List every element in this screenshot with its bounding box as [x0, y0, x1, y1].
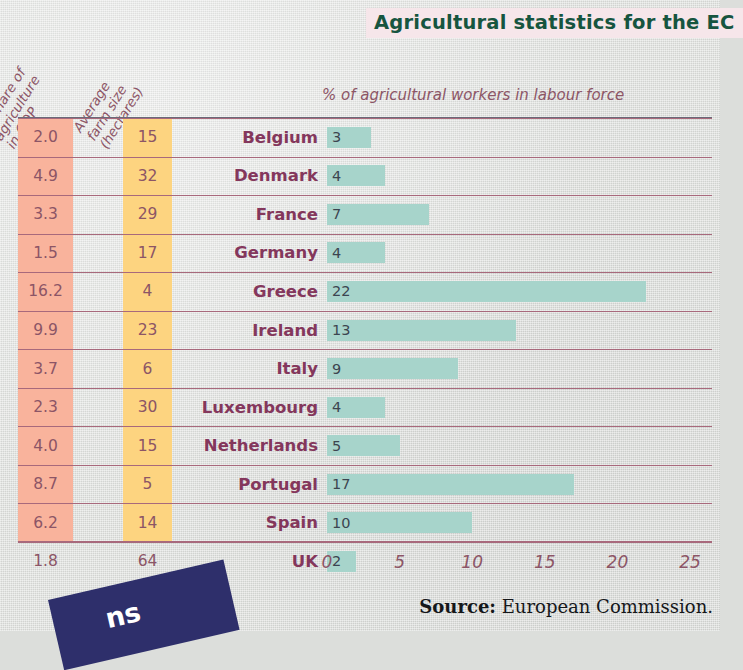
cell-gdp-share: 4.0	[18, 426, 73, 465]
bar: 4	[327, 397, 385, 418]
cell-gdp-share: 3.7	[18, 349, 73, 388]
cell-gdp-share: 8.7	[18, 465, 73, 504]
bar: 9	[327, 358, 458, 379]
table-row: 8.75Portugal17	[0, 465, 720, 504]
cell-average-farm-size: 5	[123, 465, 172, 504]
cell-average-farm-size: 15	[123, 118, 172, 157]
bar: 4	[327, 165, 385, 186]
cell-country-name: Spain	[176, 503, 318, 542]
bar: 22	[327, 281, 646, 302]
bar: 7	[327, 204, 429, 225]
bar-value-label: 4	[327, 245, 341, 261]
table-row: 4.015Netherlands5	[0, 426, 720, 465]
bar-value-label: 5	[327, 438, 341, 454]
cell-gdp-share: 6.2	[18, 503, 73, 542]
table-row: 2.330Luxembourg4	[0, 388, 720, 427]
bar-track: 17	[327, 465, 574, 504]
x-axis-ticks: 0510152025	[0, 552, 720, 582]
cell-gdp-share: 3.3	[18, 195, 73, 234]
corner-banner-text: ns	[102, 596, 143, 634]
x-axis-tick: 5	[394, 552, 405, 572]
table-row: 2.015Belgium3	[0, 118, 720, 157]
table-row: 16.24Greece22	[0, 272, 720, 311]
table-row: 6.214Spain10	[0, 503, 720, 542]
cell-country-name: Italy	[176, 349, 318, 388]
bar: 3	[327, 127, 371, 148]
x-axis-tick: 10	[461, 552, 483, 572]
page-title: Agricultural statistics for the EC	[366, 8, 743, 38]
bar: 4	[327, 242, 385, 263]
bar-track: 4	[327, 388, 385, 427]
bar-value-label: 9	[327, 361, 341, 377]
bar-value-label: 22	[327, 283, 350, 299]
cell-country-name: Portugal	[176, 465, 318, 504]
bar-value-label: 7	[327, 206, 341, 222]
bar: 17	[327, 474, 574, 495]
table-row: 1.517Germany4	[0, 234, 720, 273]
cell-gdp-share: 16.2	[18, 272, 73, 311]
cell-gdp-share: 2.3	[18, 388, 73, 427]
bar-track: 4	[327, 234, 385, 273]
cell-country-name: Luxembourg	[176, 388, 318, 427]
cell-country-name: Belgium	[176, 118, 318, 157]
bar-track: 3	[327, 118, 371, 157]
x-axis-tick: 20	[607, 552, 629, 572]
cell-country-name: Denmark	[176, 157, 318, 196]
cell-gdp-share: 4.9	[18, 157, 73, 196]
cell-country-name: France	[176, 195, 318, 234]
bar-track: 9	[327, 349, 458, 388]
cell-average-farm-size: 23	[123, 311, 172, 350]
bar-value-label: 4	[327, 399, 341, 415]
x-axis-tick: 0	[322, 552, 333, 572]
cell-country-name: Netherlands	[176, 426, 318, 465]
bar-track: 5	[327, 426, 400, 465]
cell-country-name: Ireland	[176, 311, 318, 350]
bar-value-label: 13	[327, 322, 350, 338]
source-text: European Commission.	[502, 596, 713, 617]
bar-track: 4	[327, 157, 385, 196]
table-row: 9.923Ireland13	[0, 311, 720, 350]
cell-average-farm-size: 6	[123, 349, 172, 388]
cell-average-farm-size: 30	[123, 388, 172, 427]
x-axis-tick: 15	[534, 552, 556, 572]
bar-value-label: 10	[327, 515, 350, 531]
cell-country-name: Germany	[176, 234, 318, 273]
data-table: 2.015Belgium34.932Denmark43.329France71.…	[0, 118, 720, 581]
bar-value-label: 17	[327, 476, 350, 492]
table-row: 4.932Denmark4	[0, 157, 720, 196]
cell-gdp-share: 2.0	[18, 118, 73, 157]
bar: 13	[327, 320, 516, 341]
table-row: 3.329France7	[0, 195, 720, 234]
cell-average-farm-size: 32	[123, 157, 172, 196]
cell-gdp-share: 1.5	[18, 234, 73, 273]
axis-rule	[18, 541, 712, 542]
bar-track: 7	[327, 195, 429, 234]
cell-average-farm-size: 14	[123, 503, 172, 542]
cell-average-farm-size: 4	[123, 272, 172, 311]
bar-value-label: 3	[327, 129, 341, 145]
cell-gdp-share: 9.9	[18, 311, 73, 350]
source-note: Source: European Commission.	[419, 596, 713, 617]
bar-track: 22	[327, 272, 646, 311]
cell-average-farm-size: 15	[123, 426, 172, 465]
bar: 5	[327, 435, 400, 456]
table-row: 3.76Italy9	[0, 349, 720, 388]
bar-track: 10	[327, 503, 472, 542]
source-label: Source:	[419, 596, 496, 617]
x-axis-tick: 25	[679, 552, 701, 572]
bar: 10	[327, 512, 472, 533]
cell-country-name: Greece	[176, 272, 318, 311]
chart-axis-title: % of agricultural workers in labour forc…	[322, 86, 624, 104]
cell-average-farm-size: 29	[123, 195, 172, 234]
bar-track: 13	[327, 311, 516, 350]
cell-average-farm-size: 17	[123, 234, 172, 273]
bar-value-label: 4	[327, 168, 341, 184]
